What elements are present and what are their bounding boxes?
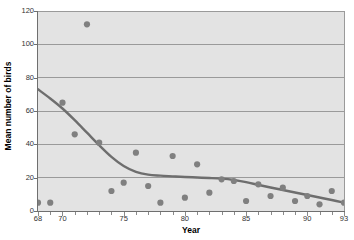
x-axis-tick-mark bbox=[271, 212, 272, 215]
x-axis-tick-label: 68 bbox=[26, 214, 50, 223]
x-axis-tick-mark bbox=[222, 212, 223, 215]
x-axis-tick-mark bbox=[87, 212, 88, 215]
x-axis-tick-mark bbox=[160, 212, 161, 215]
x-axis-tick-group: 68707580859093 bbox=[0, 0, 354, 240]
x-axis-tick-mark bbox=[197, 212, 198, 215]
x-axis-tick-label: 85 bbox=[234, 214, 258, 223]
x-axis-tick-label: 70 bbox=[50, 214, 74, 223]
x-axis-tick-label: 93 bbox=[332, 214, 354, 223]
x-axis-title: Year bbox=[38, 225, 344, 235]
x-axis-tick-mark bbox=[283, 212, 284, 215]
x-axis-tick-label: 80 bbox=[173, 214, 197, 223]
x-axis-tick-label: 90 bbox=[295, 214, 319, 223]
x-axis-tick-mark bbox=[75, 212, 76, 215]
x-axis-tick-mark bbox=[258, 212, 259, 215]
x-axis-tick-mark bbox=[148, 212, 149, 215]
x-axis-tick-mark bbox=[99, 212, 100, 215]
x-axis-tick-mark bbox=[209, 212, 210, 215]
x-axis-tick-label: 75 bbox=[112, 214, 136, 223]
x-axis-tick-mark bbox=[136, 212, 137, 215]
bird-population-chart: Mean number of birds 020406080100120 687… bbox=[0, 0, 354, 240]
x-axis-tick-mark bbox=[320, 212, 321, 215]
